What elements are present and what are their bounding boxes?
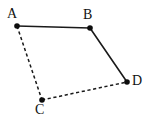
vertex-label-a: A (7, 7, 17, 21)
vertex-label-b: B (83, 8, 92, 22)
geometry-figure: A B C D (0, 0, 150, 126)
edge-cd (42, 82, 127, 100)
vertex-dot-b (87, 25, 93, 31)
figure-canvas (0, 0, 150, 126)
edge-bd (90, 28, 127, 82)
edge-ab (17, 26, 90, 28)
edge-group (17, 26, 127, 100)
edge-ac (17, 26, 42, 100)
vertex-dot-a (14, 23, 20, 29)
vertex-group (14, 23, 130, 103)
vertex-dot-d (124, 79, 130, 85)
vertex-label-c: C (35, 103, 44, 117)
vertex-label-d: D (132, 74, 142, 88)
